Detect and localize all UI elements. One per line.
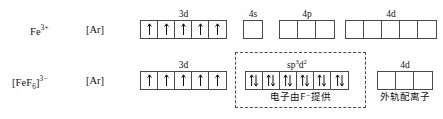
electron-up-arrow (181, 23, 186, 36)
species-label-fef6: [FeF6]3− (12, 75, 47, 91)
orbital-cell (141, 21, 158, 38)
species-symbol: Fe (30, 26, 41, 37)
orbital-group-label-3d-row2: 3d (140, 60, 227, 71)
orbital-cell (280, 72, 297, 89)
orbital-cell (298, 21, 316, 38)
species-charge: 3− (40, 75, 48, 83)
orbital-group-sp3d2: sp3d2 (245, 71, 349, 90)
orbital-group-3d-row2: 3d (140, 71, 227, 90)
electron-up-arrow (198, 74, 203, 87)
orbital-cell (414, 72, 432, 89)
orbital-boxes-4s-row1 (243, 20, 263, 39)
orbital-cell (331, 72, 348, 89)
orbital-group-label-3d-row1: 3d (140, 9, 227, 20)
orbital-cell (364, 21, 382, 38)
orbital-group-label-sp3d2: sp3d2 (245, 56, 349, 71)
orbital-cell (314, 72, 331, 89)
orbital-boxes-sp3d2 (245, 71, 349, 90)
orbital-group-label-4d-row1: 4d (345, 9, 437, 20)
orbital-cell (209, 21, 226, 38)
orbital-group-4s-row1: 4s (243, 20, 263, 39)
orbital-group-label-4s-row1: 4s (243, 9, 263, 20)
orbital-group-3d-row1: 3d (140, 20, 227, 39)
orbital-cell (346, 21, 364, 38)
orbital-cell (244, 21, 262, 38)
orbital-boxes-3d-row2 (140, 71, 227, 90)
orbital-cell (280, 21, 298, 38)
orbital-cell (316, 21, 334, 38)
hybrid-label-sp: sp (287, 60, 295, 70)
electron-pair-arrows (283, 74, 293, 87)
orbital-group-label-4p-row1: 4p (279, 9, 335, 20)
electron-up-arrow (198, 23, 203, 36)
hybrid-orbital-caption: 电子由F⁻提供 (235, 91, 366, 103)
orbital-cell (378, 72, 396, 89)
orbital-cell (175, 21, 192, 38)
hybrid-label-d-sup: 2 (304, 58, 307, 65)
electron-up-arrow (181, 74, 186, 87)
outer-orbital-complex-caption: 外轨配离子 (371, 91, 439, 103)
orbital-group-4d-row2: 4d (377, 71, 433, 90)
orbital-boxes-4d-row2 (377, 71, 433, 90)
orbital-cell (418, 21, 436, 38)
electron-up-arrow (215, 23, 220, 36)
electron-pair-arrows (300, 74, 310, 87)
orbital-group-4p-row1: 4p (279, 20, 335, 39)
electron-up-arrow (164, 23, 169, 36)
core-label-fe3plus: [Ar] (86, 24, 104, 35)
orbital-group-label-4d-row2: 4d (377, 60, 433, 71)
electron-up-arrow (164, 74, 169, 87)
orbital-cell (263, 72, 280, 89)
orbital-cell (396, 72, 414, 89)
electron-up-arrow (147, 23, 152, 36)
orbital-group-4d-row1: 4d (345, 20, 437, 39)
orbital-cell (246, 72, 263, 89)
orbital-boxes-4p-row1 (279, 20, 335, 39)
orbital-cell (158, 72, 175, 89)
species-symbol-pre: [FeF (12, 77, 32, 88)
orbital-cell (297, 72, 314, 89)
orbital-cell (192, 21, 209, 38)
orbital-cell (158, 21, 175, 38)
species-charge: 3+ (41, 24, 49, 32)
orbital-diagram-figure: Fe3+ [Ar] 3d 4s 4p 4d (0, 0, 443, 119)
orbital-cell (400, 21, 418, 38)
electron-pair-arrows (266, 74, 276, 87)
orbital-boxes-3d-row1 (140, 20, 227, 39)
electron-up-arrow (215, 74, 220, 87)
orbital-boxes-4d-row1 (345, 20, 437, 39)
orbital-cell (175, 72, 192, 89)
orbital-cell (141, 72, 158, 89)
species-label-fe3plus: Fe3+ (30, 24, 49, 37)
core-label-fef6: [Ar] (86, 75, 104, 86)
electron-pair-arrows (317, 74, 327, 87)
electron-pair-arrows (335, 74, 345, 87)
electron-pair-arrows (249, 74, 259, 87)
electron-up-arrow (147, 74, 152, 87)
orbital-cell (382, 21, 400, 38)
orbital-cell (209, 72, 226, 89)
orbital-cell (192, 72, 209, 89)
